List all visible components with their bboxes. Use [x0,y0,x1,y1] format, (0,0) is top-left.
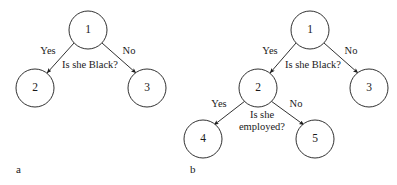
edge-label-b-edge-no-1: No [345,45,358,56]
decision-tree-figure: YesNoIs she Black?123aYesNoYesNoIs she B… [0,0,397,185]
question-line: Is she Black? [62,59,118,70]
node-label-a3: 3 [144,81,150,93]
node-label-a2: 2 [32,81,38,93]
edge-label-a-edge-yes: Yes [40,45,55,56]
edge-label-b-edge-yes-1: Yes [262,45,277,56]
tree-node-b2[interactable]: 2 [239,69,277,107]
tree-node-a1[interactable]: 1 [69,11,107,49]
edge-label-b-edge-no-2: No [290,98,303,109]
node-label-b3: 3 [366,81,372,93]
panel-caption-b: b [190,163,196,175]
panel-caption-a: a [16,163,21,175]
tree-node-b3[interactable]: 3 [350,69,388,107]
tree-node-a2[interactable]: 2 [16,69,54,107]
edge-label-b-edge-yes-2: Yes [211,98,226,109]
tree-panel-b: YesNoYesNoIs she Black?Is sheemployed?12… [184,11,388,175]
tree-node-b5[interactable]: 5 [296,120,334,158]
node-label-b1: 1 [307,23,313,35]
node-label-b5: 5 [312,132,318,144]
tree-panel-a: YesNoIs she Black?123a [16,11,166,175]
tree-node-a3[interactable]: 3 [128,69,166,107]
tree-node-b4[interactable]: 4 [184,120,222,158]
question-label-b-question-2: Is sheemployed? [239,109,285,132]
question-line: employed? [239,121,285,132]
tree-node-b1[interactable]: 1 [291,11,329,49]
question-label-question-a: Is she Black? [62,59,118,70]
node-label-b2: 2 [255,81,261,93]
decision-tree-svg: YesNoIs she Black?123aYesNoYesNoIs she B… [0,0,397,185]
node-label-a1: 1 [85,23,91,35]
question-line: Is she [250,109,275,120]
question-label-b-question-1: Is she Black? [285,59,341,70]
node-label-b4: 4 [200,132,206,144]
question-line: Is she Black? [285,59,341,70]
edge-label-a-edge-no: No [123,45,136,56]
